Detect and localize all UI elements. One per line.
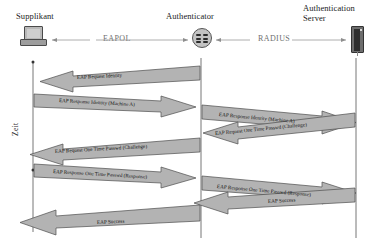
diagram-vector-layer xyxy=(0,0,373,248)
message-arrow-1 xyxy=(40,66,200,92)
sequence-diagram-canvas: Supplikant Authenticator Authentication … xyxy=(0,0,373,248)
